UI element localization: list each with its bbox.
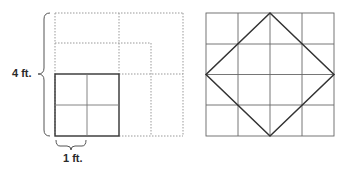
width-label: 1 ft. [63, 152, 83, 164]
diagram-canvas [0, 0, 347, 171]
width-brace [56, 140, 86, 150]
solid-square [55, 74, 119, 136]
height-label: 4 ft. [12, 67, 32, 79]
right-grid [206, 13, 334, 136]
height-brace [38, 13, 50, 136]
